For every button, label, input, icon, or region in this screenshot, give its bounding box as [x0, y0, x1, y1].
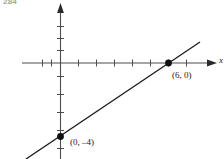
point-marker-6-0: [165, 60, 172, 67]
x-axis-arrow-icon: [207, 60, 217, 67]
y-axis-arrow-icon: [57, 3, 64, 13]
point-label-6-0: (6, 0): [172, 70, 192, 80]
point-marker-0-neg4: [57, 133, 64, 140]
point-label-0-neg4: (0, –4): [70, 137, 94, 147]
plotted-line: [26, 42, 200, 159]
x-axis-label: x: [219, 55, 223, 65]
